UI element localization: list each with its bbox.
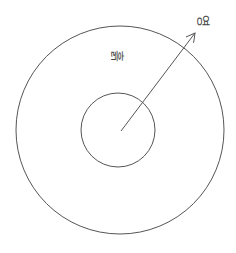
arrow: [121, 33, 195, 131]
concentric-diagram: [0, 0, 236, 253]
inner-circle: [81, 93, 155, 167]
pointer-label: 영: [197, 15, 210, 27]
region-label: 흙: [111, 50, 124, 62]
